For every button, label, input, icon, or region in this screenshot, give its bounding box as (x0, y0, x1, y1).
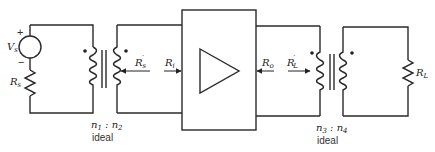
load-top-wire (343, 27, 408, 60)
rs-prime-label: Rs′ (134, 54, 147, 70)
amplifier-block (182, 10, 256, 130)
source-top-wire (30, 25, 93, 47)
amplifier-triangle-icon (200, 49, 239, 93)
rs-label: Rs (9, 76, 22, 89)
output-turns-ratio: n3 : n4 (316, 122, 348, 135)
secondary-coil-icon (114, 25, 121, 113)
input-turns-ratio: n1 : n2 (91, 119, 123, 132)
primary-dot-icon (83, 49, 87, 53)
voltage-source-icon (19, 36, 41, 58)
output-primary-dot-icon (310, 51, 314, 55)
output-resistance-arrows: Ro R′L (257, 54, 310, 71)
source-bottom-wire (30, 96, 93, 113)
circuit-diagram: + − Vs Rs n1 : n2 ideal Rs′ Ri (0, 0, 435, 152)
load-bottom-wire (343, 86, 408, 116)
ro-label: Ro (261, 57, 274, 70)
ri-label: Ri (164, 57, 175, 70)
source-resistor-icon (25, 70, 35, 96)
rl-prime-label: R′L (286, 54, 298, 70)
source-loop: + − Vs Rs (7, 25, 93, 113)
input-resistance-arrows: Rs′ Ri (121, 54, 181, 71)
vs-label: Vs (7, 41, 18, 54)
load-resistor-icon (403, 60, 413, 86)
output-secondary-coil-icon (340, 27, 347, 116)
output-primary-coil-icon (317, 26, 324, 116)
primary-coil-icon (90, 47, 97, 96)
plus-sign: + (17, 26, 23, 38)
amplifier-box (182, 10, 256, 130)
output-secondary-dot-icon (350, 51, 354, 55)
rl-label: RL (415, 67, 429, 80)
input-transformer: n1 : n2 ideal (83, 25, 128, 143)
output-transformer-ideal-note: ideal (317, 135, 338, 146)
secondary-dot-icon (124, 49, 128, 53)
output-transformer: n3 : n4 ideal (310, 26, 354, 146)
input-transformer-ideal-note: ideal (92, 132, 113, 143)
load-loop: RL (343, 27, 429, 116)
minus-sign: − (18, 56, 24, 68)
